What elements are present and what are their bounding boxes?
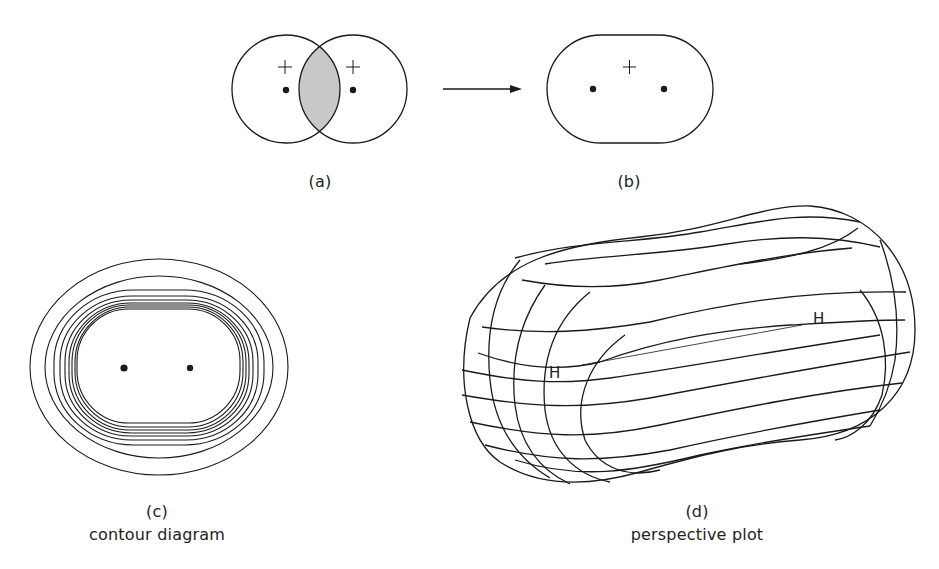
hydrogen-label-left: H — [549, 364, 560, 382]
panel-a-overlapping-orbitals — [232, 35, 407, 143]
mesh-line — [485, 410, 880, 459]
panel-b-merged-orbital — [547, 35, 713, 143]
mesh-line — [489, 260, 550, 478]
mesh-line — [740, 228, 858, 264]
nucleus-dot-2 — [661, 86, 667, 92]
mesh-line — [544, 292, 610, 482]
plus-sign — [623, 60, 636, 74]
panel-c-caption: contour diagram — [89, 525, 225, 544]
contour-line — [77, 309, 240, 423]
right-plus-sign — [346, 60, 360, 74]
mesh-line — [478, 320, 905, 368]
transition-arrow — [443, 85, 522, 93]
mesh-line — [515, 426, 870, 472]
left-nucleus-dot — [283, 87, 289, 93]
contour-line — [75, 307, 243, 427]
contour-line — [72, 305, 246, 430]
mesh-line — [545, 238, 880, 264]
panel-d-label: (d) — [685, 502, 708, 521]
right-nucleus-dot — [350, 87, 356, 93]
mesh-line — [462, 352, 910, 406]
nucleus-dot-1 — [590, 86, 596, 92]
panel-b-label: (b) — [617, 172, 640, 191]
panel-d-perspective-plot — [462, 206, 915, 484]
nucleus-dot-2 — [187, 365, 193, 371]
hydrogen-label-right: H — [813, 310, 824, 328]
mesh-line — [482, 292, 906, 332]
panel-a-label: (a) — [309, 172, 332, 191]
left-plus-sign — [278, 60, 292, 74]
nucleus-dot-1 — [120, 364, 127, 371]
mesh-line — [462, 335, 880, 382]
panel-c-label: (c) — [146, 502, 168, 521]
mesh-line — [514, 285, 570, 484]
mesh-line — [581, 335, 660, 473]
contour-line — [54, 290, 264, 445]
mesh-line — [835, 290, 886, 440]
merged-orbital-outline — [547, 35, 713, 143]
contour-line — [69, 303, 249, 433]
surface-outline — [464, 206, 915, 482]
panel-c-contour-diagram — [30, 259, 288, 475]
panel-d-caption: perspective plot — [631, 525, 764, 544]
orbital-figure — [0, 0, 939, 569]
internuclear-axis — [582, 325, 802, 365]
